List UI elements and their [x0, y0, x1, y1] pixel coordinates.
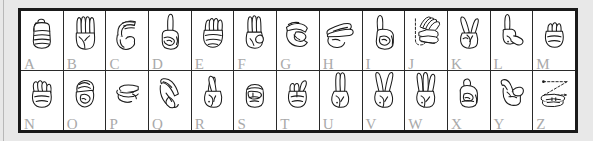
chart-cell-h[interactable]: H: [320, 11, 363, 70]
cell-letter-r: R: [195, 117, 205, 130]
chart-cell-i[interactable]: I: [363, 11, 406, 70]
cell-letter-m: M: [536, 57, 549, 70]
cell-letter-a: A: [24, 57, 35, 70]
chart-cell-b[interactable]: B: [64, 11, 107, 70]
chart-cell-q[interactable]: Q: [149, 71, 192, 130]
chart-cell-r[interactable]: R: [192, 71, 235, 130]
cell-letter-x: X: [451, 117, 462, 130]
chart-cell-m[interactable]: M: [533, 11, 575, 70]
chart-cell-f[interactable]: F: [234, 11, 277, 70]
chart-cell-u[interactable]: U: [320, 71, 363, 130]
asl-hand-p-icon: [106, 71, 148, 117]
asl-hand-l-icon: [491, 11, 533, 57]
cell-letter-f: F: [237, 57, 245, 70]
cell-letter-d: D: [152, 57, 163, 70]
cell-letter-y: Y: [494, 117, 505, 130]
cell-letter-w: W: [408, 117, 422, 130]
asl-hand-n-icon: [21, 71, 63, 117]
chart-row-bottom: N O: [21, 71, 575, 130]
asl-hand-b-icon: [64, 11, 106, 57]
cell-letter-z: Z: [536, 117, 545, 130]
asl-hand-s-icon: [234, 71, 276, 117]
asl-hand-q-icon: [149, 71, 191, 117]
chart-cell-k[interactable]: K: [448, 11, 491, 70]
asl-hand-t-icon: [277, 71, 319, 117]
asl-hand-u-icon: [320, 71, 362, 117]
cell-letter-j: J: [408, 57, 414, 70]
chart-cell-e[interactable]: E: [192, 11, 235, 70]
asl-hand-j-icon: [405, 11, 447, 57]
chart-cell-g[interactable]: G: [277, 11, 320, 70]
asl-hand-h-icon: [320, 11, 362, 57]
chart-cell-j[interactable]: J: [405, 11, 448, 70]
asl-alphabet-chart: A: [18, 8, 578, 133]
chart-cell-d[interactable]: D: [149, 11, 192, 70]
chart-cell-p[interactable]: P: [106, 71, 149, 130]
asl-hand-f-icon: [234, 11, 276, 57]
page-edge-line: [3, 0, 4, 141]
chart-cell-w[interactable]: W: [405, 71, 448, 130]
asl-hand-z-icon: [533, 71, 575, 117]
cell-letter-g: G: [280, 57, 291, 70]
cell-letter-u: U: [323, 117, 334, 130]
chart-cell-s[interactable]: S: [234, 71, 277, 130]
chart-cell-n[interactable]: N: [21, 71, 64, 130]
asl-hand-k-icon: [448, 11, 490, 57]
chart-cell-a[interactable]: A: [21, 11, 64, 70]
chart-row-top: A: [21, 11, 575, 71]
chart-cell-l[interactable]: L: [491, 11, 534, 70]
cell-letter-t: T: [280, 117, 289, 130]
cell-letter-b: B: [67, 57, 77, 70]
cell-letter-p: P: [109, 117, 117, 130]
cell-letter-q: Q: [152, 117, 163, 130]
chart-cell-o[interactable]: O: [64, 71, 107, 130]
asl-hand-a-icon: [21, 11, 63, 57]
asl-hand-r-icon: [192, 71, 234, 117]
chart-cell-v[interactable]: V: [363, 71, 406, 130]
chart-cell-t[interactable]: T: [277, 71, 320, 130]
cell-letter-v: V: [366, 117, 377, 130]
asl-hand-e-icon: [192, 11, 234, 57]
chart-cell-y[interactable]: Y: [491, 71, 534, 130]
cell-letter-s: S: [237, 117, 245, 130]
chart-grid: A: [21, 11, 575, 130]
asl-hand-w-icon: [405, 71, 447, 117]
asl-hand-d-icon: [149, 11, 191, 57]
cell-letter-h: H: [323, 57, 334, 70]
chart-cell-x[interactable]: X: [448, 71, 491, 130]
cell-letter-k: K: [451, 57, 462, 70]
asl-hand-m-icon: [533, 11, 575, 57]
cell-letter-e: E: [195, 57, 204, 70]
chart-cell-c[interactable]: C: [106, 11, 149, 70]
asl-hand-i-icon: [363, 11, 405, 57]
cell-letter-o: O: [67, 117, 78, 130]
cell-letter-i: I: [366, 57, 371, 70]
asl-hand-o-icon: [64, 71, 106, 117]
cell-letter-n: N: [24, 117, 35, 130]
asl-hand-g-icon: [277, 11, 319, 57]
asl-hand-v-icon: [363, 71, 405, 117]
chart-cell-z[interactable]: Z: [533, 71, 575, 130]
asl-hand-c-icon: [106, 11, 148, 57]
asl-hand-x-icon: [448, 71, 490, 117]
asl-hand-y-icon: [491, 71, 533, 117]
cell-letter-l: L: [494, 57, 503, 70]
cell-letter-c: C: [109, 57, 119, 70]
